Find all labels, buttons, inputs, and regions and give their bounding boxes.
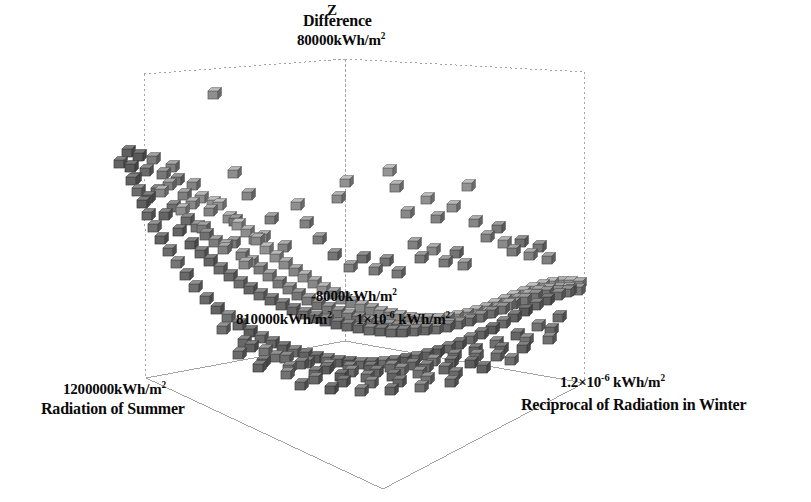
scatter-marker-cube	[390, 181, 403, 192]
scatter-marker-cube	[208, 88, 221, 99]
scatter-marker-cube	[218, 243, 231, 254]
scatter-marker-cube	[385, 384, 398, 395]
scatter-marker-cube	[524, 249, 537, 260]
scatter-marker-cube	[340, 176, 353, 187]
scatter-marker-cube	[481, 231, 494, 242]
scatter-marker-cube	[185, 238, 198, 249]
scatter-marker-cube	[155, 186, 168, 197]
scatter-marker-cube	[505, 354, 518, 365]
scatter-marker-cube	[469, 216, 482, 227]
scatter-marker-cube	[163, 245, 176, 256]
scatter-marker-cube	[328, 249, 341, 260]
scatter-marker-cube	[309, 373, 322, 384]
scatter-marker-cube	[542, 253, 555, 264]
scatter-marker-cube	[553, 311, 566, 322]
x-axis-max-tick: 1200000kWh/m2	[63, 381, 166, 398]
scatter-marker-cube	[477, 362, 490, 373]
scatter-marker-cube	[337, 376, 350, 387]
y-axis-origin-tick-prefix: 1×10	[356, 311, 386, 327]
y-axis-origin-tick-unit-exponent: 2	[446, 310, 450, 320]
scatter-marker-cube	[543, 333, 556, 344]
scatter-marker-cube	[228, 167, 241, 178]
y-axis-origin-tick-exponent: -6	[386, 309, 394, 320]
scatter-marker-cube	[200, 293, 213, 304]
scatter-marker-cube	[217, 323, 230, 334]
scatter-marker-cube	[344, 261, 357, 272]
scatter-marker-cube	[447, 201, 460, 212]
y-axis-max-tick: 1.2×10-6 kWh/m2	[560, 374, 665, 391]
scatter-marker-cube	[133, 150, 146, 161]
x-axis-max-tick-text: 1200000kWh/m	[63, 381, 161, 397]
scatter-marker-cube	[295, 358, 308, 369]
scatter-marker-cube	[532, 320, 545, 331]
scatter-marker-cube	[458, 259, 471, 270]
scatter-marker-cube	[281, 368, 294, 379]
scatter-marker-cube	[265, 213, 278, 224]
scatter-marker-cube	[239, 258, 252, 269]
scatter-marker-cube	[142, 209, 155, 220]
scatter-marker-cube	[291, 199, 304, 210]
scatter-marker-cube	[392, 267, 405, 278]
scatter-marker-cube	[171, 257, 184, 268]
scatter-marker-cube	[242, 189, 255, 200]
scatter-marker-cube	[383, 165, 396, 176]
y-axis-max-tick-unit-exponent: 2	[660, 373, 664, 383]
scatter-marker-cube	[462, 180, 475, 191]
scatter-marker-cube	[332, 192, 345, 203]
z-axis-max-tick: 80000kWh/m2	[297, 32, 385, 49]
x-axis-max-tick-exponent: 2	[161, 380, 165, 390]
scatter-marker-cube	[245, 341, 258, 352]
scatter-marker-cube	[233, 348, 246, 359]
scatter-marker-cube	[155, 233, 168, 244]
x-axis-origin-tick-exponent: 2	[327, 310, 331, 320]
plot-title-z-label: Difference	[303, 12, 372, 30]
scatter-marker-cube	[415, 252, 428, 263]
scatter-marker-cube	[180, 269, 193, 280]
z-axis-max-tick-exponent: 2	[381, 31, 385, 41]
scatter-marker-cube	[427, 244, 440, 255]
figure-3d-scatter-plot: Z Difference 80000kWh/m2 -8000kWh/m2 810…	[0, 0, 811, 502]
scatter-marker-cube	[369, 264, 382, 275]
scatter-marker-cube	[295, 379, 308, 390]
scatter-marker-cube	[211, 303, 224, 314]
scatter-marker-cube	[204, 205, 217, 216]
scatter-marker-cube	[355, 385, 368, 396]
scatter-marker-cube	[325, 383, 338, 394]
scatter-marker-cube	[445, 376, 458, 387]
scatter-marker-cube	[421, 193, 434, 204]
scatter-marker-cube	[147, 153, 160, 164]
scatter-marker-cube	[148, 221, 161, 232]
x-axis-origin-tick-text: 810000kWh/m	[236, 311, 327, 327]
scatter-marker-cube	[507, 245, 520, 256]
scatter-marker-cube	[159, 209, 172, 220]
scatter-marker-cube	[176, 204, 189, 215]
scatter-marker-cube	[189, 281, 202, 292]
scatter-marker-cube	[313, 233, 326, 244]
scatter-marker-cube	[408, 238, 421, 249]
y-axis-name: Reciprocal of Radiation in Winter	[521, 396, 746, 414]
scatter-marker-cube	[253, 361, 266, 372]
scatter-marker-cube	[278, 241, 291, 252]
scatter-marker-cube	[517, 342, 530, 353]
scatter-marker-cube	[140, 165, 153, 176]
scatter-marker-cube	[491, 350, 504, 361]
scatter-marker-cube	[300, 217, 313, 228]
y-axis-origin-tick: 1×10-6 kWh/m2	[356, 311, 450, 328]
scatter-marker-cube	[222, 311, 235, 322]
y-axis-max-tick-suffix: kWh/m	[609, 374, 660, 390]
scatter-points-layer	[0, 0, 811, 502]
y-axis-max-tick-prefix: 1.2×10	[560, 374, 601, 390]
x-axis-origin-tick: 810000kWh/m2	[236, 311, 332, 328]
z-axis-max-tick-text: 80000kWh/m	[297, 32, 381, 48]
scatter-marker-cube	[357, 252, 370, 263]
scatter-marker-cube	[125, 161, 138, 172]
z-axis-origin-tick-text: -8000kWh/m	[311, 288, 392, 304]
scatter-marker-cube	[401, 207, 414, 218]
x-axis-name: Radiation of Summer	[41, 400, 185, 418]
scatter-marker-cube	[465, 357, 478, 368]
scatter-marker-cube	[431, 212, 444, 223]
scatter-marker-cube	[173, 225, 186, 236]
scatter-marker-cube	[126, 174, 139, 185]
z-axis-origin-tick-exponent: 2	[392, 287, 396, 297]
y-axis-origin-tick-suffix: kWh/m	[395, 311, 446, 327]
